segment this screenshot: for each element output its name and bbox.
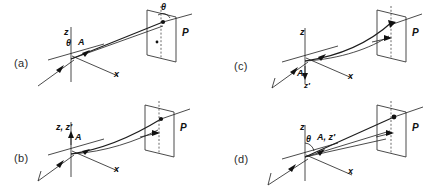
panel-b-axis-x: x bbox=[114, 165, 119, 174]
panel-a-axis-z: z bbox=[64, 28, 69, 37]
panel-d-vector-a-zprime: A, z′ bbox=[317, 133, 335, 142]
panel-a-plane-label: P bbox=[182, 28, 189, 38]
panel-c: (c) z A z′ x bbox=[218, 0, 437, 97]
panel-c-axis-z: z bbox=[300, 28, 305, 37]
panel-c-label: (c) bbox=[234, 60, 248, 72]
panel-b-drawing bbox=[0, 97, 218, 195]
panel-a-drawing bbox=[0, 0, 218, 97]
figure-canvas: (a) bbox=[0, 0, 437, 195]
panel-d-axis-z: z bbox=[300, 123, 305, 132]
panel-d: (d) z θ A, z′ x P bbox=[218, 97, 437, 195]
panel-d-plane-label: P bbox=[412, 123, 419, 133]
panel-c-drawing bbox=[218, 0, 437, 97]
panel-b-plane-label: P bbox=[180, 123, 187, 133]
panel-a-angle-theta-plane: θ bbox=[161, 3, 166, 12]
panel-a: (a) bbox=[0, 0, 218, 97]
panel-c-axis-zprime: z′ bbox=[304, 82, 310, 90]
panel-a-axis-x: x bbox=[114, 70, 119, 79]
panel-c-vector-a: A bbox=[297, 69, 304, 78]
panel-b-vector-a: A bbox=[75, 133, 82, 142]
panel-b-label: (b) bbox=[14, 152, 28, 164]
panel-c-axis-x: x bbox=[348, 72, 353, 81]
panel-c-plane-label: P bbox=[412, 28, 419, 38]
panel-d-drawing bbox=[218, 97, 437, 195]
panel-d-label: (d) bbox=[234, 153, 248, 165]
panel-d-angle-theta-origin: θ bbox=[306, 135, 311, 144]
panel-a-label: (a) bbox=[14, 57, 28, 69]
panel-a-vector-a: A bbox=[78, 38, 85, 47]
panel-b: (b) z, z′ A x P bbox=[0, 97, 218, 195]
panel-b-axis-z-zprime: z, z′ bbox=[56, 123, 72, 132]
panel-d-axis-x: x bbox=[348, 167, 353, 176]
panel-a-angle-theta-origin: θ bbox=[66, 39, 71, 48]
